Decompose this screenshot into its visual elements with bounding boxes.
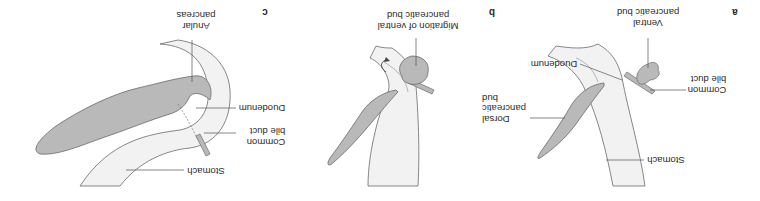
- label-common-bile-duct-c: Common bile duct: [247, 126, 286, 147]
- label-anular-pancreas: Anular pancreas: [176, 10, 215, 31]
- panel-b-ventral-bud: [400, 56, 429, 84]
- panel-b-artwork: [328, 38, 434, 186]
- panel-b-letter: b: [489, 7, 495, 18]
- label-common-bile-duct-a: Common bile duct: [688, 74, 727, 95]
- label-duodenum-a: Duodenum: [531, 59, 577, 70]
- label-stomach-c: Stomach: [187, 166, 225, 177]
- panel-a-letter: a: [732, 7, 738, 18]
- panel-a-dorsal-bud: [538, 83, 604, 159]
- label-migration-ventral-bud: Migration of ventral pancreatic bud: [378, 10, 459, 31]
- panel-c-artwork: [36, 40, 236, 186]
- label-duodenum-c: Duodenum: [239, 103, 285, 114]
- label-stomach-a: Stomach: [647, 155, 685, 166]
- label-dorsal-pancreatic-bud: Dorsal pancreatic bud: [482, 92, 526, 124]
- embryology-figure: a b c Ventral pancreatic bud Common bile…: [0, 0, 760, 201]
- label-ventral-pancreatic-bud: Ventral pancreatic bud: [617, 7, 679, 28]
- panel-c-letter: c: [262, 7, 268, 18]
